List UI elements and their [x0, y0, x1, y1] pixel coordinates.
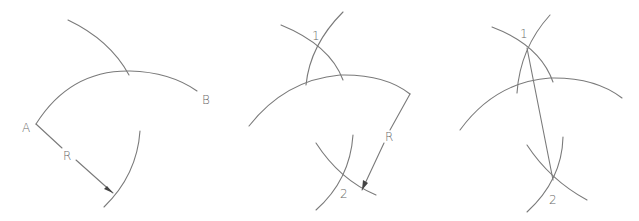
- bisector-line: [527, 48, 553, 180]
- panel-step-2: 1 2 R: [249, 12, 410, 210]
- radius-arrowhead: [362, 180, 368, 190]
- lower-arc-left: [527, 145, 587, 200]
- lower-construction-arc: [104, 131, 140, 207]
- radius-line-upper: [390, 94, 410, 130]
- label-r: R: [385, 130, 393, 144]
- upper-construction-arc: [68, 20, 129, 75]
- label-1: 1: [312, 29, 320, 43]
- radius-arrowhead: [104, 186, 113, 193]
- label-1: 1: [520, 27, 528, 41]
- lower-arc-right: [527, 137, 563, 212]
- construction-diagram: A B R 1 2 R 1 2: [0, 0, 639, 221]
- main-arc: [249, 75, 410, 126]
- label-2: 2: [549, 193, 557, 207]
- label-b: B: [202, 93, 210, 107]
- upper-arc-right: [306, 12, 343, 85]
- label-r: R: [63, 149, 71, 163]
- panel-step-1: A B R: [22, 20, 210, 207]
- main-arc-ab: [36, 71, 197, 124]
- panel-step-3: 1 2: [460, 15, 622, 212]
- radius-line: [36, 124, 62, 148]
- main-arc: [460, 78, 622, 130]
- label-2: 2: [340, 187, 348, 201]
- label-a: A: [22, 121, 30, 135]
